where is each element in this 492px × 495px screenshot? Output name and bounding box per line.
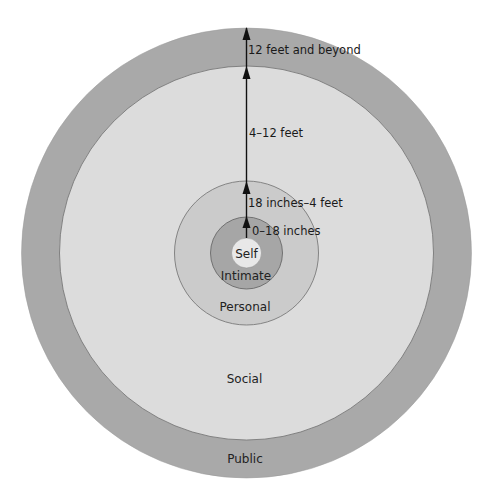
distance-label-social: 4–12 feet bbox=[249, 126, 304, 140]
zone-label-public: Public bbox=[227, 452, 263, 466]
distance-label-public: 12 feet and beyond bbox=[248, 43, 361, 57]
zone-label-intimate: Intimate bbox=[221, 269, 271, 283]
distance-label-intimate: 0–18 inches bbox=[252, 224, 321, 238]
zone-label-self: Self bbox=[235, 247, 258, 261]
proxemics-diagram: 12 feet and beyond 4–12 feet 18 inches–4… bbox=[0, 0, 492, 495]
zone-label-social: Social bbox=[227, 372, 263, 386]
zone-label-personal: Personal bbox=[219, 300, 270, 314]
distance-label-personal: 18 inches–4 feet bbox=[248, 196, 343, 210]
